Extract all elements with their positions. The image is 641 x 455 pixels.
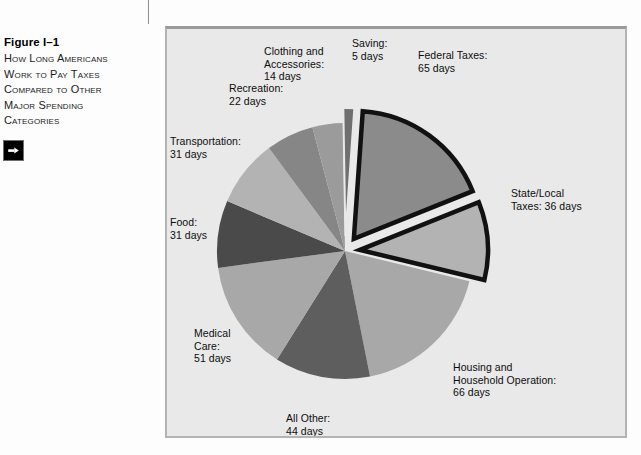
pie-slice — [343, 108, 354, 236]
pie-label-housing: Housing and Household Operation: 66 days — [453, 361, 556, 399]
pie-label-medical-care: Medical Care: 51 days — [194, 327, 231, 365]
figure-title-line-1: How Long Americans — [4, 51, 144, 67]
pie-label-federal-taxes: Federal Taxes: 65 days — [418, 49, 487, 74]
pie-label-food: Food: 31 days — [170, 216, 207, 241]
caption-divider — [148, 0, 149, 24]
figure-title-line-4: Major Spending — [4, 98, 144, 114]
pie-label-saving: Saving: 5 days — [352, 37, 387, 62]
figure-title-line-5: Categories — [4, 113, 144, 129]
figure-title-line-2: Work to Pay Taxes — [4, 67, 144, 83]
figure-page: Figure I–1 How Long Americans Work to Pa… — [0, 0, 641, 455]
pie-label-recreation: Recreation: 22 days — [229, 82, 283, 107]
figure-panel-inner: Federal Taxes: 65 days Saving: 5 days Cl… — [167, 29, 625, 436]
pie-label-state-local-taxes: State/Local Taxes: 36 days — [511, 187, 582, 212]
figure-number: Figure I–1 — [4, 36, 144, 48]
figure-panel: Federal Taxes: 65 days Saving: 5 days Cl… — [165, 26, 627, 438]
arrow-right-icon — [3, 140, 24, 161]
pie-label-transportation: Transportation: 31 days — [170, 135, 241, 160]
figure-title-line-3: Compared to Other — [4, 82, 144, 98]
figure-caption: Figure I–1 How Long Americans Work to Pa… — [4, 36, 144, 129]
figure-title: How Long Americans Work to Pay Taxes Com… — [4, 51, 144, 129]
pie-label-all-other: All Other: 44 days — [286, 412, 330, 437]
pie-label-clothing: Clothing and Accessories: 14 days — [264, 45, 324, 83]
pie-slice-group — [217, 108, 488, 379]
